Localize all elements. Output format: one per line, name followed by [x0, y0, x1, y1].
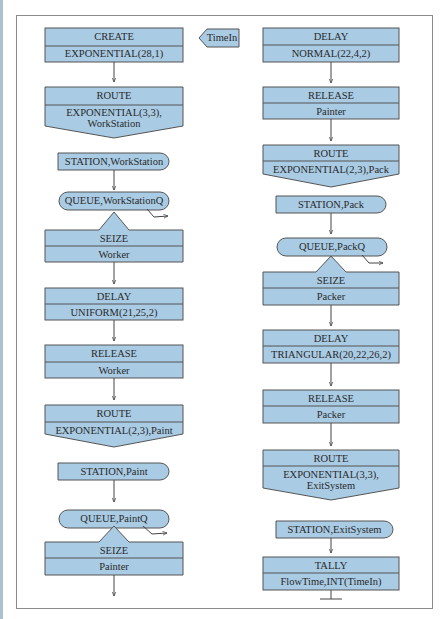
- queue-paintq-label: QUEUE,PaintQ: [59, 513, 169, 525]
- station-exitsystem-label: STATION,ExitSystem: [276, 524, 393, 536]
- route-pack-header: ROUTE: [263, 148, 399, 160]
- delay-uniform-header: DELAY: [45, 291, 183, 303]
- seize-painter-header: SEIZE: [45, 545, 183, 557]
- queue-packq-label: QUEUE,PackQ: [277, 241, 387, 253]
- release-painter-body: Painter: [263, 106, 399, 118]
- seize-packer-body: Packer: [263, 291, 399, 303]
- seize-worker-header: SEIZE: [45, 233, 183, 245]
- release-painter-header: RELEASE: [263, 90, 399, 102]
- route-paint-body: EXPONENTIAL(2,3),Paint: [45, 425, 183, 437]
- delay-triangular-header: DELAY: [263, 333, 399, 345]
- create-body: EXPONENTIAL(28,1): [45, 48, 183, 60]
- route-exitsystem-body-line2: ExitSystem: [263, 480, 399, 492]
- route-exitsystem-header: ROUTE: [263, 453, 399, 465]
- route-paint-header: ROUTE: [45, 408, 183, 420]
- station-workstation-label: STATION,WorkStation: [58, 156, 170, 168]
- route-workstation-body-line2: WorkStation: [45, 118, 183, 130]
- release-worker-body: Worker: [45, 365, 183, 377]
- station-paint-label: STATION,Paint: [58, 466, 170, 478]
- tally-flowtime-header: TALLY: [263, 560, 399, 572]
- seize-worker-body: Worker: [45, 249, 183, 261]
- release-worker-header: RELEASE: [45, 348, 183, 360]
- queue-workstationq-label: QUEUE,WorkStationQ: [59, 195, 169, 207]
- station-pack-label: STATION,Pack: [276, 199, 386, 211]
- route-pack-body: EXPONENTIAL(2,3),Pack: [263, 164, 399, 176]
- create-header: CREATE: [45, 31, 183, 43]
- route-workstation-header: ROUTE: [45, 90, 183, 102]
- seize-packer-header: SEIZE: [263, 275, 399, 287]
- release-packer-body: Packer: [263, 409, 399, 421]
- seize-painter-body: Painter: [45, 561, 183, 573]
- delay-normal-header: DELAY: [263, 31, 399, 43]
- delay-uniform-body: UNIFORM(21,25,2): [45, 307, 183, 319]
- attribute-tag-timein-label: TimeIn: [205, 32, 239, 44]
- tally-flowtime-body: FlowTime,INT(TimeIn): [263, 576, 399, 588]
- release-packer-header: RELEASE: [263, 393, 399, 405]
- delay-normal-body: NORMAL(22,4,2): [263, 48, 399, 60]
- delay-triangular-body: TRIANGULAR(20,22,26,2): [263, 349, 399, 361]
